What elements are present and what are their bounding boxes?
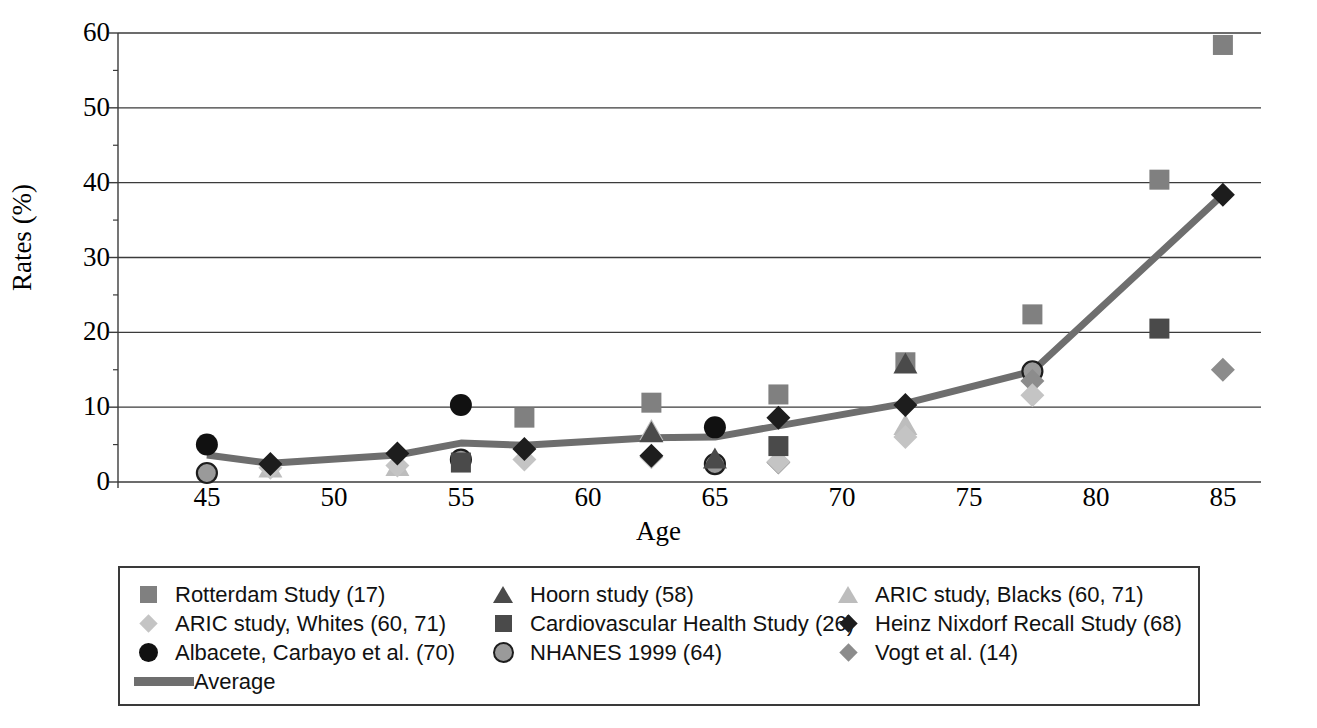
legend-item-label: Hoorn study (58) (530, 584, 694, 606)
data-point-marker (1213, 35, 1233, 55)
data-point-marker (639, 421, 663, 442)
legend-item-label: Heinz Nixdorf Recall Study (68) (875, 613, 1182, 635)
square-marker-icon (134, 584, 162, 605)
legend-item[interactable]: Vogt et al. (14) (834, 638, 1188, 667)
data-point-marker (1149, 170, 1169, 190)
circle-marker-icon (134, 642, 162, 663)
x-axis-tick-label: 80 (1056, 484, 1136, 511)
legend-item[interactable]: ARIC study, Blacks (60, 71) (834, 580, 1188, 609)
legend-item-label: NHANES 1999 (64) (530, 642, 722, 664)
data-point-marker (1020, 383, 1044, 407)
chart-page: Rates (%) Age 6050403020100 455055606570… (0, 0, 1317, 728)
legend-item[interactable]: NHANES 1999 (64) (489, 638, 834, 667)
x-axis-tick-label: 55 (421, 484, 501, 511)
legend-item[interactable]: ARIC study, Whites (60, 71) (134, 609, 489, 638)
data-point-marker (641, 393, 661, 413)
data-point-marker (1149, 319, 1169, 339)
legend-item-label: Average (194, 671, 276, 693)
data-point-marker (514, 408, 534, 428)
rates-by-age-chart: Rates (%) Age 6050403020100 455055606570… (0, 0, 1317, 560)
legend-item[interactable]: Albacete, Carbayo et al. (70) (134, 638, 489, 667)
legend-item-label: Cardiovascular Health Study (26) (530, 613, 854, 635)
data-point-marker (768, 384, 788, 404)
circle-outline-marker-icon (489, 642, 517, 663)
x-axis-tick-label: 45 (167, 484, 247, 511)
diamond-marker-icon (134, 613, 162, 634)
data-point-marker (639, 444, 663, 468)
gridlines (118, 33, 1261, 482)
x-axis-tick-label: 60 (548, 484, 628, 511)
legend-item[interactable]: Rotterdam Study (17) (134, 580, 489, 609)
x-axis-tick-label: 75 (929, 484, 1009, 511)
chart-legend: Rotterdam Study (17)Hoorn study (58)ARIC… (118, 566, 1200, 706)
legend-item-label: Vogt et al. (14) (875, 642, 1018, 664)
plot-area (0, 0, 1317, 560)
legend-item-label: ARIC study, Whites (60, 71) (175, 613, 446, 635)
line-marker-icon (134, 671, 194, 692)
data-point-marker (768, 436, 788, 456)
x-axis-tick-label: 85 (1183, 484, 1263, 511)
diamond-marker-icon (834, 642, 862, 663)
x-axis-tick-label: 50 (294, 484, 374, 511)
data-point-marker (704, 416, 726, 438)
legend-item[interactable]: Heinz Nixdorf Recall Study (68) (834, 609, 1188, 638)
data-point-marker (197, 463, 217, 483)
data-point-markers (196, 35, 1235, 483)
x-axis-tick-label: 70 (802, 484, 882, 511)
axis-ticks (109, 33, 118, 488)
triangle-marker-icon (489, 584, 517, 605)
legend-item[interactable]: Average (134, 667, 489, 696)
legend-item-label: ARIC study, Blacks (60, 71) (875, 584, 1144, 606)
data-point-marker (1211, 358, 1235, 382)
legend-item[interactable]: Cardiovascular Health Study (26) (489, 609, 834, 638)
legend-item-label: Albacete, Carbayo et al. (70) (175, 642, 455, 664)
data-point-marker (1022, 304, 1042, 324)
data-point-marker (196, 434, 218, 456)
legend-item-label: Rotterdam Study (17) (175, 584, 385, 606)
data-point-marker (451, 453, 471, 473)
data-point-marker (450, 394, 472, 416)
diamond-marker-icon (834, 613, 862, 634)
data-point-marker (893, 393, 917, 417)
legend-item[interactable]: Hoorn study (58) (489, 580, 834, 609)
square-marker-icon (489, 613, 517, 634)
triangle-marker-icon (834, 584, 862, 605)
x-axis-tick-label: 65 (675, 484, 755, 511)
legend-entries: Rotterdam Study (17)Hoorn study (58)ARIC… (134, 580, 1188, 696)
